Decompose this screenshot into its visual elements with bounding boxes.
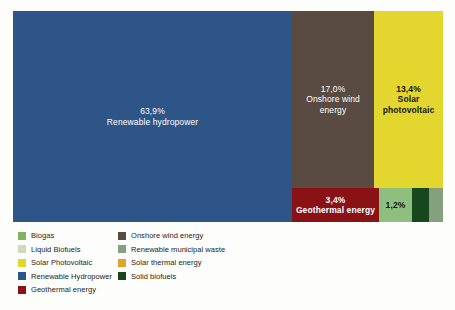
legend-item-label: Renewable municipal waste	[131, 245, 225, 254]
legend-swatch-icon	[18, 259, 26, 267]
tile-category-label: Onshore wind energy	[292, 94, 374, 114]
tile-percent-label: 17,0%	[321, 84, 346, 94]
tile-percent-label: 13,4%	[396, 84, 421, 94]
legend-item-solar-thermal-energy[interactable]: Solar thermal energy	[118, 256, 318, 269]
tile-percent-label: 63,9%	[140, 106, 165, 116]
tile-percent-label: 1,2%	[386, 200, 406, 210]
chart-legend: Biogas Liquid Biofuels Solar Photovoltai…	[18, 229, 438, 297]
legend-item-geothermal-energy[interactable]: Geothermal energy	[18, 283, 126, 296]
legend-swatch-icon	[118, 259, 126, 267]
legend-item-renewable-hydropower[interactable]: Renewable Hydropower	[18, 270, 126, 283]
chart-page: 63,9% Renewable hydropower 17,0% Onshore…	[0, 0, 455, 310]
legend-item-renewable-municipal-waste[interactable]: Renewable municipal waste	[118, 243, 318, 256]
tile-category-label: Solar photovoltaic	[374, 94, 443, 114]
legend-item-biogas[interactable]: Biogas	[18, 229, 126, 242]
tile-percent-label: 3,4%	[326, 195, 346, 205]
treemap-tile-geothermal-energy[interactable]: 3,4% Geothermal energy	[292, 188, 379, 222]
treemap-tile-solar-photovoltaic[interactable]: 13,4% Solar photovoltaic	[374, 11, 443, 188]
legend-swatch-icon	[18, 286, 26, 294]
tile-category-label: Geothermal energy	[294, 205, 377, 215]
legend-item-solid-biofuels[interactable]: Solid biofuels	[118, 270, 318, 283]
legend-item-liquid-biofuels[interactable]: Liquid Biofuels	[18, 243, 126, 256]
legend-column-right: Onshore wind energy Renewable municipal …	[118, 229, 318, 297]
legend-swatch-icon	[18, 245, 26, 253]
tile-category-label: Renewable hydropower	[105, 117, 200, 127]
legend-item-label: Onshore wind energy	[131, 231, 203, 240]
legend-item-solar-photovoltaic[interactable]: Solar Photovoltaic	[18, 256, 126, 269]
legend-item-label: Biogas	[31, 231, 54, 240]
legend-swatch-icon	[18, 232, 26, 240]
treemap-tile-onshore-wind-energy[interactable]: 17,0% Onshore wind energy	[292, 11, 374, 188]
treemap-tile-biogas[interactable]: 1,2%	[379, 188, 412, 222]
legend-item-label: Solar Photovoltaic	[31, 258, 92, 267]
treemap-chart: 63,9% Renewable hydropower 17,0% Onshore…	[13, 11, 443, 222]
legend-item-label: Solar thermal energy	[131, 258, 202, 267]
legend-swatch-icon	[118, 272, 126, 280]
treemap-tile-renewable-municipal-waste[interactable]	[429, 188, 443, 222]
treemap-tile-solid-biofuels[interactable]	[412, 188, 429, 222]
legend-item-label: Renewable Hydropower	[31, 272, 112, 281]
legend-column-left: Biogas Liquid Biofuels Solar Photovoltai…	[18, 229, 126, 297]
legend-item-onshore-wind-energy[interactable]: Onshore wind energy	[118, 229, 318, 242]
legend-swatch-icon	[118, 232, 126, 240]
legend-item-label: Liquid Biofuels	[31, 245, 81, 254]
legend-swatch-icon	[118, 245, 126, 253]
legend-swatch-icon	[18, 272, 26, 280]
legend-item-label: Geothermal energy	[31, 285, 96, 294]
legend-item-label: Solid biofuels	[131, 272, 176, 281]
treemap-tile-renewable-hydropower[interactable]: 63,9% Renewable hydropower	[13, 11, 292, 222]
